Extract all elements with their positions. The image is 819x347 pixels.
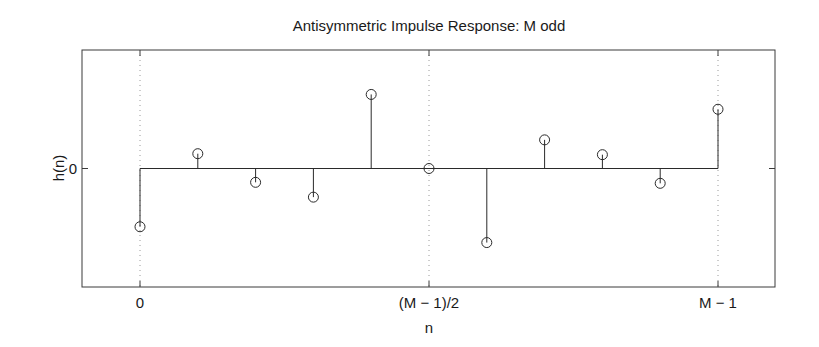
x-axis-label: n [425, 319, 433, 336]
stem [366, 89, 376, 168]
stem [540, 135, 550, 169]
y-tick-labels: 0 [69, 160, 77, 177]
x-tick-label: (M − 1)/2 [399, 294, 459, 311]
stem [482, 169, 492, 248]
stem [251, 169, 261, 188]
x-tick-labels: 0(M − 1)/2M − 1 [136, 294, 737, 311]
stem [655, 169, 665, 189]
y-axis-label: h(n) [50, 155, 67, 182]
stem [308, 169, 318, 203]
stem [597, 150, 607, 169]
stem [713, 104, 723, 168]
x-tick-label: M − 1 [699, 294, 737, 311]
chart-title: Antisymmetric Impulse Response: M odd [293, 17, 566, 34]
y-tick-label: 0 [69, 160, 77, 177]
stem-chart: Antisymmetric Impulse Response: M odd 0(… [0, 0, 819, 347]
x-tick-label: 0 [136, 294, 144, 311]
stem [193, 149, 203, 169]
stem [135, 169, 145, 232]
